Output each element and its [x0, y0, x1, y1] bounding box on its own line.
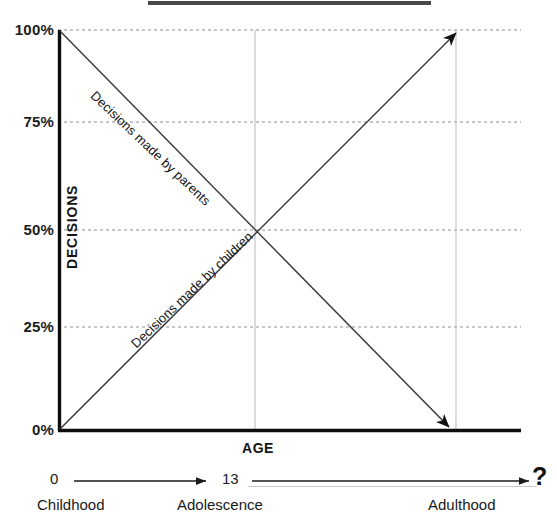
y-axis-title: DECISIONS — [64, 175, 82, 279]
y-tick-0: 0% — [2, 422, 54, 437]
timeline-stage-adolescence: Adolescence — [177, 496, 263, 513]
horizontal-gridlines — [58, 30, 521, 327]
chart-canvas: 100% 75% 50% 25% 0% DECISIONS AGE Decisi… — [0, 0, 557, 528]
y-axis-tick-labels: 100% 75% 50% 25% 0% — [0, 0, 54, 528]
timeline-age-0: 0 — [50, 470, 58, 487]
age-timeline: 0 13 ? Childhood Adolescence Adulthood — [0, 462, 557, 528]
y-tick-25: 25% — [2, 319, 54, 334]
timeline-arrows — [0, 462, 557, 528]
x-axis-title: AGE — [58, 440, 458, 456]
y-tick-75: 75% — [2, 114, 54, 129]
y-tick-100: 100% — [2, 22, 54, 37]
timeline-question-mark: ? — [532, 464, 547, 489]
timeline-age-13: 13 — [222, 470, 239, 487]
axis-lines — [58, 30, 521, 431]
timeline-stage-childhood: Childhood — [37, 496, 105, 513]
timeline-stage-adulthood: Adulthood — [428, 496, 496, 513]
y-tick-50: 50% — [2, 222, 54, 237]
